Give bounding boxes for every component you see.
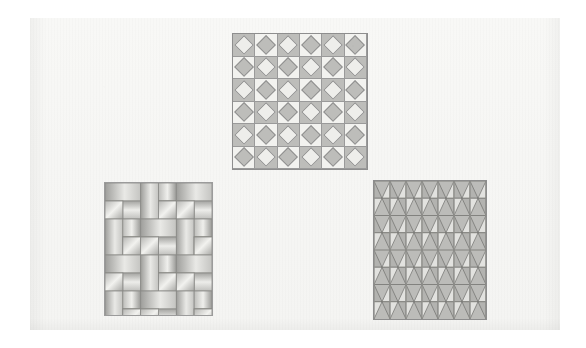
diamond-cell bbox=[300, 57, 322, 80]
basketweave-tile bbox=[176, 183, 212, 201]
diamond-cell bbox=[278, 102, 300, 125]
basketweave-tile bbox=[123, 201, 141, 219]
diamond-cell bbox=[345, 34, 367, 57]
basketweave-tile bbox=[141, 237, 159, 255]
diamond-cell bbox=[300, 124, 322, 147]
basketweave-tile bbox=[159, 309, 177, 315]
inscribed-diamond bbox=[323, 102, 343, 122]
basketweave-tile bbox=[105, 219, 123, 255]
figure-root bbox=[0, 0, 586, 348]
inscribed-diamond bbox=[345, 80, 365, 100]
inscribed-diamond bbox=[278, 102, 298, 122]
basketweave-tile bbox=[176, 255, 212, 273]
basketweave-tile bbox=[141, 219, 177, 237]
basketweave-tile bbox=[123, 273, 141, 291]
inscribed-diamond bbox=[301, 102, 321, 122]
basketweave-tile bbox=[194, 291, 212, 309]
diamond-cell bbox=[300, 102, 322, 125]
diamond-cell bbox=[322, 102, 344, 125]
inscribed-diamond bbox=[256, 125, 276, 145]
basketweave-tile bbox=[159, 183, 177, 201]
diamond-cell bbox=[322, 34, 344, 57]
inscribed-diamond bbox=[256, 80, 276, 100]
inscribed-diamond bbox=[323, 125, 343, 145]
inscribed-diamond bbox=[234, 57, 254, 77]
basketweave-tile bbox=[176, 291, 194, 315]
inscribed-diamond bbox=[234, 147, 254, 167]
diamond-cell bbox=[233, 34, 255, 57]
inscribed-diamond bbox=[256, 35, 276, 55]
inscribed-diamond bbox=[234, 80, 254, 100]
diamond-cell bbox=[255, 57, 277, 80]
inscribed-diamond bbox=[323, 57, 343, 77]
diamond-cell bbox=[233, 79, 255, 102]
basketweave-tile bbox=[123, 219, 141, 237]
basketweave-tile bbox=[159, 273, 177, 291]
inscribed-diamond bbox=[345, 125, 365, 145]
diamond-cell bbox=[322, 147, 344, 170]
inscribed-diamond bbox=[345, 35, 365, 55]
basketweave-tile bbox=[141, 183, 159, 219]
page-shadow-left bbox=[30, 18, 46, 330]
inscribed-diamond bbox=[278, 35, 298, 55]
diamond-cell bbox=[345, 102, 367, 125]
inscribed-diamond bbox=[301, 147, 321, 167]
rhombus-lattice-svg bbox=[374, 181, 486, 319]
diamond-cell bbox=[345, 147, 367, 170]
inscribed-diamond bbox=[345, 102, 365, 122]
diamond-cell bbox=[278, 79, 300, 102]
diamond-cell bbox=[233, 102, 255, 125]
diamond-cell bbox=[233, 124, 255, 147]
basketweave-tile bbox=[123, 291, 141, 309]
basketweave-tile bbox=[105, 291, 123, 315]
diamond-cell bbox=[255, 34, 277, 57]
inscribed-diamond bbox=[345, 57, 365, 77]
basketweave-tile bbox=[159, 237, 177, 255]
basketweave-tile bbox=[194, 309, 212, 315]
diamond-cell bbox=[300, 147, 322, 170]
page-shadow-right bbox=[544, 18, 560, 330]
inscribed-diamond bbox=[234, 35, 254, 55]
basketweave-tile bbox=[141, 291, 177, 309]
diamond-cell bbox=[233, 57, 255, 80]
basketweave-tile bbox=[194, 201, 212, 219]
inscribed-diamond bbox=[323, 35, 343, 55]
diamond-cell bbox=[345, 57, 367, 80]
diamond-cell bbox=[322, 124, 344, 147]
diamond-cell bbox=[278, 34, 300, 57]
basketweave-tile bbox=[159, 255, 177, 273]
basketweave-tile bbox=[176, 201, 194, 219]
inscribed-diamond bbox=[234, 125, 254, 145]
basketweave-tile bbox=[123, 237, 141, 255]
diamond-cell bbox=[322, 57, 344, 80]
inscribed-diamond bbox=[323, 147, 343, 167]
basketweave-tile bbox=[105, 201, 123, 219]
basketweave-tile bbox=[105, 255, 141, 273]
diamond-cell bbox=[278, 57, 300, 80]
basketweave-tile bbox=[176, 273, 194, 291]
basketweave-tile bbox=[123, 309, 141, 315]
basketweave-tile bbox=[176, 219, 194, 255]
diamond-cell bbox=[255, 147, 277, 170]
inscribed-diamond bbox=[256, 57, 276, 77]
diamond-cell bbox=[255, 102, 277, 125]
basketweave-tile bbox=[105, 273, 123, 291]
diamond-cell bbox=[255, 79, 277, 102]
diamond-cell bbox=[300, 79, 322, 102]
pattern-basketweave bbox=[104, 182, 213, 316]
diamond-cell bbox=[345, 79, 367, 102]
diamond-cell bbox=[278, 147, 300, 170]
inscribed-diamond bbox=[345, 147, 365, 167]
inscribed-diamond bbox=[278, 125, 298, 145]
diamond-cell bbox=[255, 124, 277, 147]
inscribed-diamond bbox=[323, 80, 343, 100]
inscribed-diamond bbox=[301, 80, 321, 100]
inscribed-diamond bbox=[301, 125, 321, 145]
diamond-cell bbox=[278, 124, 300, 147]
basketweave-tile bbox=[141, 255, 159, 291]
basketweave-tile bbox=[105, 183, 141, 201]
basketweave-svg bbox=[105, 183, 212, 315]
inscribed-diamond bbox=[278, 80, 298, 100]
inscribed-diamond bbox=[278, 147, 298, 167]
inscribed-diamond bbox=[278, 57, 298, 77]
